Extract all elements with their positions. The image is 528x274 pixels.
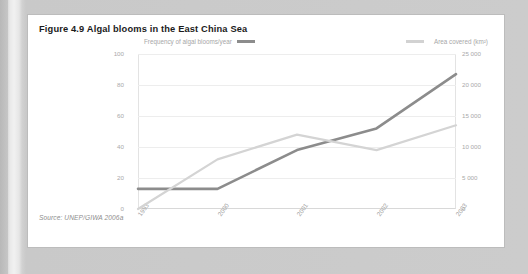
y-axis-right-tick: 15 000 [462,113,502,119]
legend-label-frequency: Frequency of algal blooms/year [144,38,232,45]
y-axis-right-tick: 10 000 [462,144,502,150]
y-axis-left-tick: 0 [94,206,124,212]
legend-swatch-frequency-icon [237,40,255,43]
y-axis-left-tick: 60 [94,113,124,119]
y-axis-left-tick: 40 [94,144,124,150]
source-note: Source: UNEP/GIWA 2006a [39,214,123,221]
y-axis-right-tick: 0 [462,206,502,212]
series-line [138,74,456,189]
series-line [138,125,456,209]
legend-item-area: Area covered (km²) [406,38,488,45]
y-axis-right-tick: 25 000 [462,51,502,57]
figure-card: Figure 4.9 Algal blooms in the East Chin… [27,14,505,248]
page-title: Figure 4.9 Algal blooms in the East Chin… [39,24,247,34]
y-axis-left-tick: 80 [94,82,124,88]
y-axis-left-tick: 100 [94,51,124,57]
chart-series-svg [138,54,456,209]
y-axis-left-tick: 20 [94,175,124,181]
y-axis-right-tick: 20 000 [462,82,502,88]
chart-plot: 020406080100 05 00010 00015 00020 00025 … [138,54,456,209]
legend-label-area: Area covered (km²) [434,38,488,45]
legend-item-frequency: Frequency of algal blooms/year [144,38,255,45]
legend-swatch-area-icon [406,40,424,43]
y-axis-right-tick: 5 000 [462,175,502,181]
